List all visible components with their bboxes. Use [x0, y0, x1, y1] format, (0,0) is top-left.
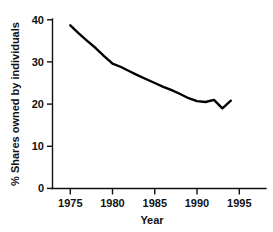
- y-axis-title: % Shares owned by individuals: [9, 22, 21, 186]
- x-tick-label: 1980: [100, 197, 124, 209]
- y-tick-label: 10: [32, 140, 44, 152]
- y-tick-label: 30: [32, 56, 44, 68]
- x-axis-title: Year: [140, 214, 164, 226]
- chart-container: 40 30 20 10 0 1975 1980 1985 1990 1995 Y…: [0, 0, 273, 232]
- x-tick-label: 1990: [185, 197, 209, 209]
- x-tick-label: 1975: [58, 197, 82, 209]
- y-tick-label: 20: [32, 98, 44, 110]
- x-tick-label: 1985: [143, 197, 167, 209]
- line-chart: 40 30 20 10 0 1975 1980 1985 1990 1995 Y…: [0, 0, 273, 232]
- data-series-line: [70, 25, 231, 108]
- x-axis-tick-labels: 1975 1980 1985 1990 1995: [58, 197, 251, 209]
- x-tick-label: 1995: [227, 197, 251, 209]
- x-axis-ticks: [70, 189, 239, 195]
- y-tick-label: 40: [32, 14, 44, 26]
- y-axis-ticks: [47, 20, 53, 189]
- y-axis-tick-labels: 40 30 20 10 0: [32, 14, 44, 194]
- y-tick-label: 0: [38, 182, 44, 194]
